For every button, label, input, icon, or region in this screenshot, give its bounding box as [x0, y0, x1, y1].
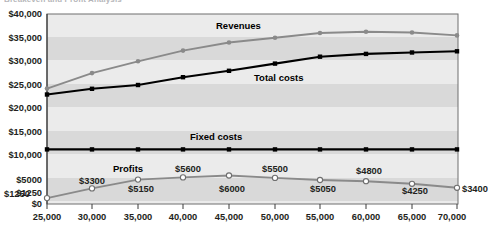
profit-label-35000: $5150: [128, 184, 154, 194]
profit-label-30000: $3300: [79, 176, 105, 186]
y-tick-15000: $15,000: [0, 127, 42, 137]
profit-label-70000: $3400: [462, 184, 488, 194]
series-label-profits: Profits: [113, 163, 143, 174]
x-tick-25000: 25,000: [33, 212, 61, 222]
x-tick-60000: 60,000: [352, 212, 380, 222]
profit-label-60000: $4800: [356, 166, 382, 176]
series-label-total-costs: Total costs: [254, 72, 303, 83]
series-label-fixed-costs: Fixed costs: [190, 131, 242, 142]
y-tick-35000: $35,000: [0, 33, 42, 43]
profit-label-25000: $1250: [4, 189, 30, 199]
profit-label-55000: $5050: [310, 184, 336, 194]
y-tick-25000: $25,000: [0, 80, 42, 90]
x-tick-35000: 35,000: [124, 212, 152, 222]
x-tick-65000: 65,000: [398, 212, 426, 222]
y-tick-10000: $10,000: [0, 150, 42, 160]
x-tick-45000: 45,000: [215, 212, 243, 222]
profit-label-65000: $4250: [402, 186, 428, 196]
x-tick-30000: 30,000: [78, 212, 106, 222]
profit-label-40000: $5600: [175, 164, 201, 174]
y-tick-0: $0: [0, 199, 42, 209]
x-tick-55000: 55,000: [306, 212, 334, 222]
y-tick-5000: $5000: [0, 175, 42, 185]
profit-label-45000: $6000: [219, 184, 245, 194]
y-tick-30000: $30,000: [0, 56, 42, 66]
x-tick-40000: 40,000: [169, 212, 197, 222]
x-axis-ticks: [47, 204, 457, 209]
plot-background-bands: [47, 14, 458, 204]
x-tick-70000: 70,000: [438, 212, 466, 222]
profit-label-50000: $5500: [262, 164, 288, 174]
x-tick-50000: 50,000: [261, 212, 289, 222]
y-tick-20000: $20,000: [0, 103, 42, 113]
series-label-revenues: Revenues: [216, 20, 261, 31]
y-tick-40000: $40,000: [0, 9, 42, 19]
